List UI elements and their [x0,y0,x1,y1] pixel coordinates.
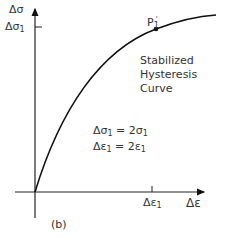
x-axis-label: Δε [186,197,201,209]
y-axis-label: Δσ [9,4,24,16]
point-label: P1' [147,13,158,32]
equation-strain: Δε1 = 2ε1 [93,141,146,156]
eq2-lhs: Δε [93,140,106,153]
eq1-rhs: = 2σ [113,124,143,137]
x-tick-label: Δε1 [143,197,162,212]
x-tick-text: Δε [143,196,156,209]
curve-caption-3: Curve [140,82,172,95]
point-label-text: P [147,16,154,29]
curve-caption-1: Stabilized [140,54,194,67]
y-tick-subscript: 1 [20,25,25,34]
eq1-lhs: Δσ [93,124,108,137]
eq2-rhs: = 2ε [112,140,141,153]
panel-label: (b) [51,218,67,231]
hysteresis-curve [35,15,216,192]
y-tick-label: Δσ1 [5,21,25,36]
eq1-rhs-sub: 1 [143,129,148,138]
point-prime: ' [156,15,158,23]
eq2-rhs-sub: 1 [141,145,146,154]
y-tick-text: Δσ [5,20,20,33]
x-tick-subscript: 1 [156,201,161,210]
equation-stress: Δσ1 = 2σ1 [93,125,148,140]
curve-caption-2: Hysteresis [140,68,197,81]
